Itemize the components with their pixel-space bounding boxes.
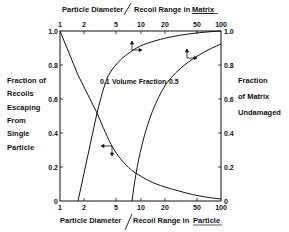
- volume-fraction-annotation: 0.1 Volume Fraction 0.5: [100, 78, 179, 85]
- right-axis-title: Fraction of Matrix Undamaged: [238, 76, 281, 117]
- svg-text:of Matrix: of Matrix: [238, 92, 270, 101]
- bottom-tick-label: 20: [161, 204, 169, 211]
- top-tick-label: 10: [137, 21, 145, 28]
- left-tick-label: 1.0: [48, 28, 58, 35]
- svg-text:Recoils: Recoils: [7, 89, 34, 98]
- bottom-axis-title: Particle Diameter Recoil Range in Partic…: [60, 214, 222, 230]
- svg-text:Particle: Particle: [7, 143, 34, 152]
- chart: Particle Diameter Recoil Range in Matrix…: [0, 0, 289, 232]
- annotation-0.1: 0.1: [100, 78, 110, 85]
- svg-text:Fraction of: Fraction of: [7, 76, 46, 85]
- top-tick-label: 5: [114, 21, 118, 28]
- right-axis-ticks: 0 0.2 0.4 0.6 0.8 1.0: [224, 28, 234, 205]
- top-axis-title-underlined: Matrix: [192, 5, 215, 14]
- svg-text:From: From: [7, 116, 26, 125]
- svg-text:Fraction: Fraction: [238, 76, 268, 85]
- bottom-tick-label: 10: [137, 204, 145, 211]
- top-axis-title-main: Recoil Range in: [134, 5, 191, 14]
- right-tick-label: 0.2: [224, 164, 234, 171]
- left-tick-label: 0.4: [48, 130, 58, 137]
- top-axis-title-prefix: Particle Diameter: [62, 5, 123, 14]
- top-tick-label: 20: [161, 21, 169, 28]
- top-tick-label: 2: [82, 21, 86, 28]
- top-tick-label: 50: [193, 21, 201, 28]
- left-tick-label: 0.6: [48, 96, 58, 103]
- left-tick-label: 0.8: [48, 62, 58, 69]
- top-axis-slash: [124, 3, 131, 15]
- annotation-0.5: 0.5: [169, 78, 179, 85]
- arrow-escaping-to-left-axis: [101, 145, 114, 157]
- left-axis-title: Fraction of Recoils Escaping From Single…: [7, 76, 46, 152]
- curve-undamaged-0.5: [132, 44, 221, 201]
- left-tick-label: 0.2: [48, 164, 58, 171]
- right-tick-label: 0.6: [224, 96, 234, 103]
- right-tick-label: 0.4: [224, 130, 234, 137]
- bottom-axis-title-underlined: Particle: [193, 216, 220, 225]
- right-tick-label: 1.0: [224, 28, 234, 35]
- top-axis-ticks: 1 2 5 10 20 50 100: [58, 21, 227, 28]
- left-axis-ticks: 0 0.2 0.4 0.6 0.8 1.0: [48, 28, 58, 205]
- top-tick-label: 100: [215, 21, 227, 28]
- svg-text:Single: Single: [7, 129, 30, 138]
- svg-text:Undamaged: Undamaged: [238, 108, 281, 117]
- top-axis-title: Particle Diameter Recoil Range in Matrix: [62, 3, 218, 15]
- right-tick-label: 0.8: [224, 62, 234, 69]
- bottom-axis-slash: [125, 214, 132, 230]
- top-tick-label: 1: [58, 21, 62, 28]
- bottom-axis-title-prefix: Particle Diameter: [60, 216, 121, 225]
- annotation-volume-fraction: Volume Fraction: [112, 78, 166, 85]
- bottom-tick-label: 1: [58, 204, 62, 211]
- bottom-tick-label: 100: [215, 204, 227, 211]
- bottom-tick-label: 5: [114, 204, 118, 211]
- bottom-tick-label: 50: [193, 204, 201, 211]
- svg-text:Escaping: Escaping: [7, 103, 41, 112]
- arrow-0.5-to-right-axis: [186, 49, 198, 60]
- bottom-axis-title-main: Recoil Range in: [133, 216, 190, 225]
- curve-undamaged-0.1: [78, 31, 221, 201]
- bottom-axis-ticks: 1 2 5 10 20 50 100: [58, 204, 227, 211]
- bottom-tick-label: 2: [82, 204, 86, 211]
